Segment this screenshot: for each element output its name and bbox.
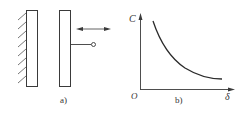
- fixed-plate: [27, 11, 38, 87]
- x-axis-label: δ: [225, 91, 230, 102]
- ground-hatching-icon: [18, 13, 26, 83]
- origin-label: O: [131, 91, 138, 101]
- panel-b-caption: b): [175, 95, 183, 105]
- y-axis-label: C: [129, 13, 136, 24]
- movable-plate: [60, 11, 71, 87]
- panel-b: C O δ b): [129, 13, 235, 105]
- diagram-canvas: a) C O δ b): [0, 0, 246, 118]
- capacitance-curve: [153, 21, 222, 79]
- terminal-icon: [92, 43, 96, 47]
- panel-a-caption: a): [60, 95, 67, 105]
- double-arrow-icon: [76, 27, 111, 31]
- y-axis-arrow-icon: [139, 13, 143, 20]
- panel-a: a): [18, 11, 111, 106]
